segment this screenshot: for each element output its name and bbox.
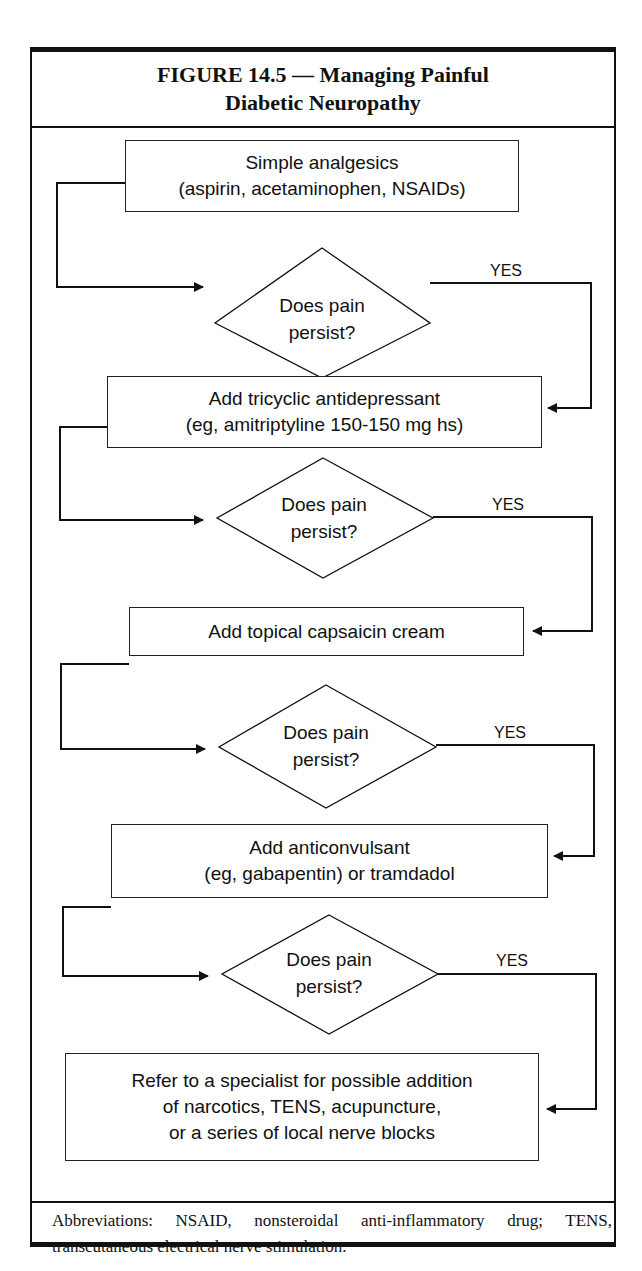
step-text: Add topical capsaicin cream xyxy=(208,619,445,645)
step-text: Add anticonvulsant xyxy=(249,835,410,861)
step-tricyclic-antidepressant: Add tricyclic antidepressant (eg, amitri… xyxy=(107,376,542,448)
decision-line: Does pain xyxy=(221,719,431,746)
step-anticonvulsant: Add anticonvulsant (eg, gabapentin) or t… xyxy=(111,824,548,898)
decision-line: persist? xyxy=(221,746,431,773)
step-text: Refer to a specialist for possible addit… xyxy=(131,1068,472,1094)
step-text: Add tricyclic antidepressant xyxy=(209,386,440,412)
abbreviations-note: Abbreviations: NSAID, nonsteroidal anti-… xyxy=(52,1208,612,1260)
step-text: or a series of local nerve blocks xyxy=(169,1120,435,1146)
decision-line: persist? xyxy=(224,973,434,1000)
decision-line: persist? xyxy=(219,518,429,545)
decision-line: persist? xyxy=(217,319,427,346)
decision-line: Does pain xyxy=(217,292,427,319)
step-text: (eg, amitriptyline 150-150 mg hs) xyxy=(186,412,464,438)
decision-3-text: Does pain persist? xyxy=(221,719,431,773)
step-simple-analgesics: Simple analgesics (aspirin, acetaminophe… xyxy=(125,140,519,212)
yes-label-4: YES xyxy=(496,952,528,970)
decision-4-text: Does pain persist? xyxy=(224,946,434,1000)
step-text: (eg, gabapentin) or tramdadol xyxy=(204,861,454,887)
step-topical-capsaicin: Add topical capsaicin cream xyxy=(129,607,524,656)
yes-label-1: YES xyxy=(490,262,522,280)
decision-line: Does pain xyxy=(224,946,434,973)
footer-divider xyxy=(32,1201,614,1203)
step-text: (aspirin, acetaminophen, NSAIDs) xyxy=(178,176,465,202)
step-text: Simple analgesics xyxy=(245,150,398,176)
decision-line: Does pain xyxy=(219,491,429,518)
step-refer-specialist: Refer to a specialist for possible addit… xyxy=(65,1053,539,1161)
step-text: of narcotics, TENS, acupuncture, xyxy=(163,1094,441,1120)
decision-2-text: Does pain persist? xyxy=(219,491,429,545)
yes-label-3: YES xyxy=(494,724,526,742)
yes-label-2: YES xyxy=(492,496,524,514)
decision-1-text: Does pain persist? xyxy=(217,292,427,346)
